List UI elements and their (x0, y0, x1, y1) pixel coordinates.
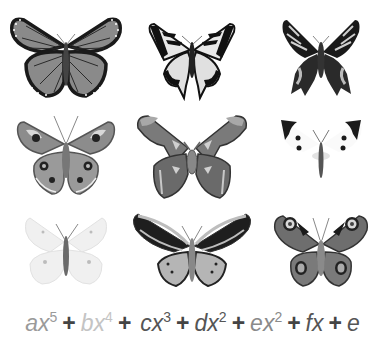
term-a: ax5 (25, 310, 57, 336)
var-x: x (38, 310, 50, 336)
term-c: cx3 (140, 310, 171, 336)
butterfly-cabbage-white (257, 104, 385, 204)
coef-b: b (81, 310, 94, 336)
plus-operator: + (176, 310, 189, 336)
var-x: x (263, 310, 275, 336)
exponent: 5 (50, 309, 58, 325)
term-e: ex2 (250, 310, 282, 336)
birdwing-illustration (128, 202, 256, 302)
term-d: dx2 (195, 310, 227, 336)
polynomial-formula: ax5+bx4+cx3+dx2+ex2+fx+e (0, 306, 385, 340)
plus-operator: + (329, 310, 342, 336)
exponent: 3 (163, 309, 171, 325)
butterfly-buckeye (2, 104, 130, 204)
plus-operator: + (118, 310, 131, 336)
term-b: bx4 (81, 310, 113, 336)
exponent: 2 (219, 309, 227, 325)
var-x: x (207, 310, 219, 336)
moth-atlas (128, 104, 256, 204)
coef-a: a (25, 310, 38, 336)
dark-moth-illustration (257, 2, 385, 102)
term-constant: e (347, 310, 360, 336)
pale-white-illustration (2, 202, 130, 302)
plus-operator: + (62, 310, 75, 336)
coef-e: e (250, 310, 263, 336)
butterfly-grid (0, 0, 385, 300)
peacock-illustration (257, 202, 385, 302)
butterfly-monarch (2, 2, 130, 102)
swallowtail-illustration (128, 2, 256, 102)
exponent: 2 (274, 309, 282, 325)
plus-operator: + (232, 310, 245, 336)
butterfly-peacock (257, 202, 385, 302)
butterfly-pale-white (2, 202, 130, 302)
coef-d: d (195, 310, 208, 336)
atlas-moth-illustration (128, 104, 256, 204)
coef-c: c (140, 310, 152, 336)
moth-dark-swallowtail (257, 2, 385, 102)
monarch-illustration (2, 2, 130, 102)
butterfly-birdwing (128, 202, 256, 302)
cabbage-white-illustration (257, 104, 385, 204)
plus-operator: + (287, 310, 300, 336)
var-x: x (94, 310, 106, 336)
constant-e: e (347, 310, 360, 336)
buckeye-illustration (2, 104, 130, 204)
exponent: 4 (105, 309, 113, 325)
butterfly-swallowtail (128, 2, 256, 102)
var-x: x (312, 310, 324, 336)
term-f: fx (306, 310, 324, 336)
var-x: x (152, 310, 164, 336)
